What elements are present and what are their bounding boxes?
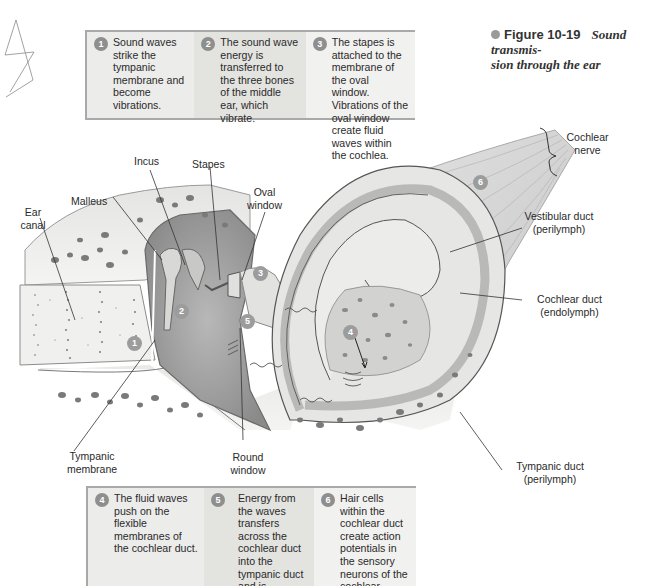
bottom-steps-box: 4 The fluid waves push on the flexible m… [86,486,416,586]
diagram-marker-5: 5 [240,314,255,329]
diagram-marker-3: 3 [253,266,268,281]
step-6-text: Hair cells within the cochlear duct crea… [340,492,408,586]
diagram-marker-2: 2 [174,304,189,319]
step-5-number: 5 [211,493,225,507]
label-malleus: Malleus [71,195,107,208]
label-ear-canal: Ear canal [15,206,51,231]
label-incus: Incus [134,155,159,168]
diagram-marker-1: 1 [127,336,142,351]
scribble-mark [5,20,34,97]
label-tympanic-membrane: Tympanic membrane [62,450,122,475]
step-6: 6 Hair cells within the cochlear duct cr… [314,488,416,586]
label-oval-window: Oval window [242,186,287,211]
step-5-text: Energy from the waves transfers across t… [238,492,303,586]
label-stapes: Stapes [192,158,225,171]
step-5: 5 Energy from the waves transfers across… [204,488,314,586]
label-round-window: Round window [228,451,268,476]
diagram-marker-4: 4 [343,325,358,340]
label-cochlear-duct: Cochlear duct (endolymph) [522,293,617,318]
label-tympanic-duct: Tympanic duct (perilymph) [505,460,595,485]
step-6-number: 6 [321,493,335,507]
label-cochlear-nerve: Cochlear nerve [560,131,615,156]
step-4-text: The fluid waves push on the flexible mem… [114,492,198,554]
step-4-number: 4 [95,493,109,507]
step-4: 4 The fluid waves push on the flexible m… [88,488,204,586]
diagram-marker-6: 6 [473,175,488,190]
label-vestibular-duct: Vestibular duct (perilymph) [524,210,594,235]
